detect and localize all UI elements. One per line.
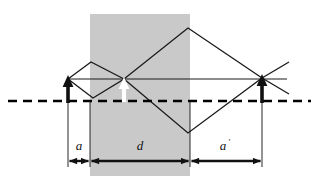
final-image-arrow <box>257 74 268 103</box>
dimension-a-prime-mark: ' <box>228 137 231 147</box>
optics-ray-diagram-canvas: a d a ' <box>0 0 319 191</box>
dimension-d-label: d <box>137 138 144 153</box>
upper-right-extension-ray <box>262 62 289 78</box>
optics-figure: a d a ' <box>0 0 319 191</box>
dimension-a-prime-label: a <box>220 138 227 153</box>
dimension-a-label: a <box>76 138 83 153</box>
